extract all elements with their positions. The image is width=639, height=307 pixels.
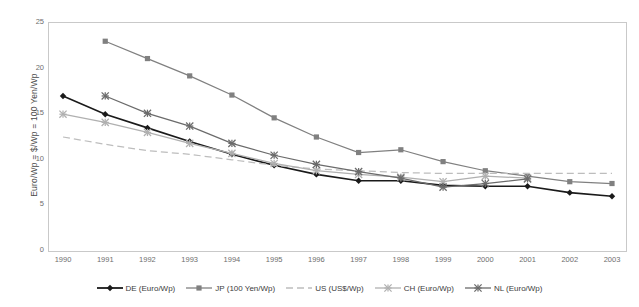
x-axis-tick-label: 1998 <box>379 256 423 264</box>
data-point-marker <box>102 119 109 126</box>
x-axis-tick-label: 2000 <box>463 256 507 264</box>
x-axis-tick-label: 2001 <box>506 256 550 264</box>
y-axis-tick-label: 15 <box>4 109 44 117</box>
x-axis-tick-label: 1996 <box>294 256 338 264</box>
data-point-marker <box>313 167 320 174</box>
data-point-marker <box>144 129 151 136</box>
series-line <box>105 41 612 183</box>
data-point-marker <box>144 110 151 117</box>
data-point-marker <box>272 115 277 120</box>
legend-label: CH (Euro/Wp) <box>404 284 454 293</box>
data-point-marker <box>59 111 66 118</box>
plot-area <box>48 22 627 252</box>
data-point-marker <box>186 122 193 129</box>
data-point-marker <box>60 93 66 99</box>
legend-item[interactable]: DE (Euro/Wp) <box>97 283 176 293</box>
data-point-marker <box>355 178 361 184</box>
x-axis-tick-label: 1999 <box>421 256 465 264</box>
data-point-marker <box>474 284 481 291</box>
data-point-marker <box>103 39 108 44</box>
data-point-marker <box>228 150 235 157</box>
data-point-marker <box>229 92 234 97</box>
data-point-marker <box>440 159 445 164</box>
legend-item[interactable]: US (US$/Wp) <box>286 283 363 293</box>
legend-swatch-icon <box>286 283 312 293</box>
legend-swatch-icon <box>97 283 123 293</box>
x-axis-tick-label: 1992 <box>125 256 169 264</box>
legend-label: US (US$/Wp) <box>315 284 363 293</box>
data-point-marker <box>482 173 489 180</box>
legend-label: NL (Euro/Wp) <box>494 284 543 293</box>
legend-label: JP (100 Yen/Wp) <box>215 284 275 293</box>
data-point-marker <box>186 140 193 147</box>
y-axis-tick-label: 0 <box>4 246 44 254</box>
data-point-marker <box>609 181 614 186</box>
y-axis-tick-label: 20 <box>4 64 44 72</box>
data-point-marker <box>482 180 489 187</box>
x-axis-tick-label: 1997 <box>337 256 381 264</box>
data-point-marker <box>384 284 391 291</box>
data-point-marker <box>271 152 278 159</box>
x-axis-tick-label: 1993 <box>168 256 212 264</box>
chart-container: Euro/Wp = $/Wp = 100 Yen/Wp 0510152025 1… <box>0 0 639 307</box>
data-point-marker <box>609 193 615 199</box>
y-axis-tick-label: 25 <box>4 18 44 26</box>
legend-swatch-icon <box>375 283 401 293</box>
data-point-marker <box>524 175 531 182</box>
y-axis-tick-label: 10 <box>4 155 44 163</box>
data-point-marker <box>356 150 361 155</box>
data-point-marker <box>145 56 150 61</box>
x-axis-tick-label: 2002 <box>548 256 592 264</box>
legend-swatch-icon <box>465 283 491 293</box>
legend-item[interactable]: JP (100 Yen/Wp) <box>186 283 275 293</box>
data-point-marker <box>228 140 235 147</box>
data-point-marker <box>313 161 320 168</box>
legend-swatch-icon <box>186 283 212 293</box>
y-axis-tick-label: 5 <box>4 200 44 208</box>
data-point-marker <box>187 73 192 78</box>
data-point-marker <box>102 92 109 99</box>
legend-item[interactable]: CH (Euro/Wp) <box>375 283 454 293</box>
y-axis-tick-labels: 0510152025 <box>0 0 44 307</box>
x-axis-tick-label: 1991 <box>83 256 127 264</box>
data-point-marker <box>439 184 446 191</box>
data-point-marker <box>483 168 488 173</box>
chart-legend: DE (Euro/Wp)JP (100 Yen/Wp)US (US$/Wp)CH… <box>0 283 639 293</box>
legend-item[interactable]: NL (Euro/Wp) <box>465 283 543 293</box>
plot-svg <box>49 23 626 251</box>
x-axis-tick-labels: 1990199119921993199419951996199719981999… <box>48 256 627 270</box>
x-axis-tick-label: 1990 <box>41 256 85 264</box>
data-point-marker <box>271 160 278 167</box>
legend-label: DE (Euro/Wp) <box>126 284 176 293</box>
x-axis-tick-label: 2003 <box>590 256 634 264</box>
x-axis-tick-label: 1994 <box>210 256 254 264</box>
x-axis-tick-label: 1995 <box>252 256 296 264</box>
data-point-marker <box>567 179 572 184</box>
data-point-marker <box>106 285 112 291</box>
data-point-marker <box>397 174 404 181</box>
data-point-marker <box>567 189 573 195</box>
data-point-marker <box>197 285 202 290</box>
data-point-marker <box>102 111 108 117</box>
data-point-marker <box>355 168 362 175</box>
data-point-marker <box>314 134 319 139</box>
data-point-marker <box>524 183 530 189</box>
data-point-marker <box>398 147 403 152</box>
